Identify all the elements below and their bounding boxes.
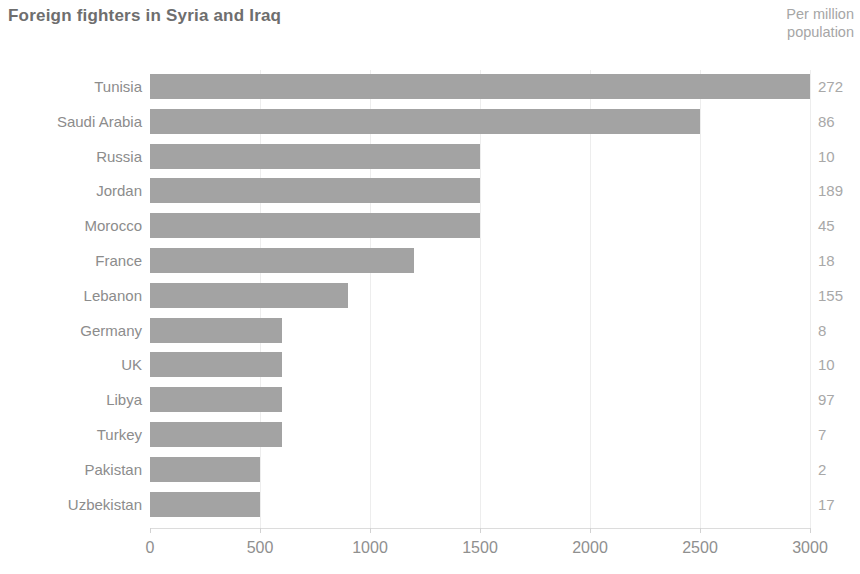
category-label: Libya [0, 387, 142, 412]
per-million-value: 10 [818, 144, 835, 169]
bar [150, 422, 282, 447]
per-million-value: 155 [818, 283, 843, 308]
per-million-value: 7 [818, 422, 826, 447]
x-tick-label: 0 [146, 538, 155, 558]
x-tick-mark [150, 528, 151, 533]
category-label: Uzbekistan [0, 492, 142, 517]
x-tick-label: 500 [247, 538, 274, 558]
per-million-value: 10 [818, 352, 835, 377]
x-tick-mark [590, 528, 591, 533]
bar [150, 352, 282, 377]
bar-row: Libya97 [0, 387, 860, 412]
category-label: Germany [0, 318, 142, 343]
category-label: Saudi Arabia [0, 109, 142, 134]
bar-row: Uzbekistan17 [0, 492, 860, 517]
category-label: France [0, 248, 142, 273]
bar [150, 387, 282, 412]
bar-row: Lebanon155 [0, 283, 860, 308]
x-tick-mark [260, 528, 261, 533]
per-million-value: 8 [818, 318, 826, 343]
bar-row: Saudi Arabia86 [0, 109, 860, 134]
bar-row: Turkey7 [0, 422, 860, 447]
per-million-value: 17 [818, 492, 835, 517]
per-million-value: 45 [818, 213, 835, 238]
bar [150, 74, 810, 99]
x-tick-label: 1500 [462, 538, 498, 558]
bar [150, 248, 414, 273]
category-label: Lebanon [0, 283, 142, 308]
bar [150, 492, 260, 517]
bar-row: Russia10 [0, 144, 860, 169]
page-title: Foreign fighters in Syria and Iraq [8, 6, 281, 26]
per-million-value: 86 [818, 109, 835, 134]
bar-row: France18 [0, 248, 860, 273]
bar [150, 144, 480, 169]
bar [150, 318, 282, 343]
bar [150, 213, 480, 238]
bar-row: Jordan189 [0, 178, 860, 203]
unit-label-line-2: population [786, 23, 854, 41]
category-label: Morocco [0, 213, 142, 238]
per-million-value: 272 [818, 74, 843, 99]
bar [150, 283, 348, 308]
x-tick-mark [810, 528, 811, 533]
per-million-value: 189 [818, 178, 843, 203]
bar [150, 457, 260, 482]
x-tick-mark [480, 528, 481, 533]
category-label: Pakistan [0, 457, 142, 482]
x-tick-mark [370, 528, 371, 533]
x-tick-label: 1000 [352, 538, 388, 558]
bar-row: UK10 [0, 352, 860, 377]
unit-label-line-1: Per million [786, 5, 854, 23]
category-label: Russia [0, 144, 142, 169]
bar-row: Morocco45 [0, 213, 860, 238]
per-million-value: 97 [818, 387, 835, 412]
x-tick-label: 2000 [572, 538, 608, 558]
category-label: Jordan [0, 178, 142, 203]
x-tick-label: 3000 [792, 538, 828, 558]
bar-row: Tunisia272 [0, 74, 860, 99]
bar-chart: Foreign fighters in Syria and Iraq Per m… [0, 0, 860, 574]
bar [150, 109, 700, 134]
bar-row: Germany8 [0, 318, 860, 343]
per-million-value: 2 [818, 457, 826, 482]
bar-row: Pakistan2 [0, 457, 860, 482]
category-label: Turkey [0, 422, 142, 447]
x-tick-mark [700, 528, 701, 533]
bar [150, 178, 480, 203]
per-million-value: 18 [818, 248, 835, 273]
unit-label: Per million population [786, 5, 854, 41]
x-tick-label: 2500 [682, 538, 718, 558]
category-label: UK [0, 352, 142, 377]
category-label: Tunisia [0, 74, 142, 99]
